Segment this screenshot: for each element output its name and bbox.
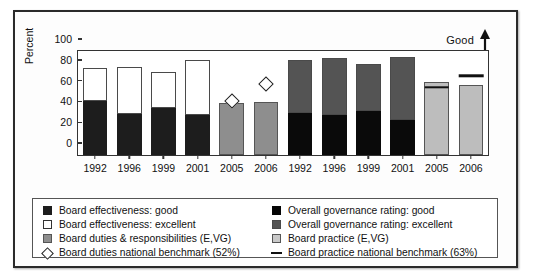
x-axis-tick — [470, 155, 471, 159]
x-axis-label: 2005 — [425, 162, 448, 174]
y-axis-tick: 0 — [66, 137, 78, 149]
y-axis-tick: 20 — [60, 116, 78, 128]
legend-swatch-icon — [272, 220, 281, 229]
x-axis-label: 1996 — [323, 162, 346, 174]
bar-segment-excellent — [185, 60, 210, 115]
x-axis-tick — [129, 155, 130, 159]
x-axis-label: 1999 — [357, 162, 380, 174]
x-axis-label: 1996 — [118, 162, 141, 174]
x-axis-label: 2005 — [220, 162, 243, 174]
bar-segment-oexcellent — [356, 64, 381, 112]
legend-item: Board practice national benchmark (63%) — [272, 246, 497, 260]
legend-column-left: Board effectiveness: goodBoard effective… — [33, 199, 268, 257]
bar — [424, 82, 449, 155]
benchmark-line-marker — [424, 86, 449, 89]
bar-segment-excellent — [117, 67, 142, 115]
x-axis-label: 1992 — [288, 162, 311, 174]
bar — [117, 67, 142, 155]
legend-item: Board duties & responsibilities (E,VG) — [43, 232, 268, 246]
legend-item: Board practice (E,VG) — [272, 232, 497, 246]
bar — [254, 102, 279, 155]
x-axis-tick — [265, 155, 266, 159]
legend-swatch-icon — [43, 206, 52, 215]
legend-item: Board effectiveness: good — [43, 204, 268, 218]
plot-axes: 1008060402001992199619992001200520061992… — [77, 50, 489, 156]
x-axis-label: 1999 — [152, 162, 175, 174]
legend-label: Board duties national benchmark (52%) — [59, 247, 240, 258]
y-axis-tick: 100 — [54, 33, 78, 45]
x-axis-tick — [299, 155, 300, 159]
x-axis-label: 2006 — [459, 162, 482, 174]
bar — [288, 60, 313, 155]
x-axis-tick — [163, 155, 164, 159]
legend-swatch-icon — [43, 234, 52, 243]
y-axis-label: Percent — [23, 28, 35, 64]
bar — [185, 60, 210, 155]
bar-segment-good — [117, 114, 142, 155]
legend-label: Board practice (E,VG) — [288, 233, 389, 244]
legend-swatch-icon — [272, 206, 281, 215]
bar-segment-duties — [254, 102, 279, 155]
legend-swatch-icon — [272, 234, 281, 243]
legend-label: Board effectiveness: good — [59, 205, 178, 216]
plot-area-wrapper: Good Percent 100806040200199219961999200… — [15, 12, 516, 186]
bar — [151, 72, 176, 155]
x-axis-tick — [94, 155, 95, 159]
bar — [356, 63, 381, 155]
legend-label: Board effectiveness: excellent — [59, 219, 196, 230]
bar-segment-oexcellent — [288, 60, 313, 113]
figure-frame: Good Percent 100806040200199219961999200… — [13, 10, 518, 268]
x-axis-tick — [231, 155, 232, 159]
bar — [322, 58, 347, 155]
legend-column-right: Overall governance rating: goodOverall g… — [268, 199, 497, 257]
bar-segment-duties — [219, 103, 244, 155]
x-axis-label: 2001 — [186, 162, 209, 174]
x-axis-label: 2001 — [391, 162, 414, 174]
y-axis-tick: 40 — [60, 95, 78, 107]
bar-segment-ogood — [322, 115, 347, 155]
legend-label: Board practice national benchmark (63%) — [288, 247, 477, 258]
bar-segment-excellent — [83, 68, 108, 101]
y-axis-tick: 80 — [60, 54, 78, 66]
x-axis-tick — [197, 155, 198, 159]
bar-segment-excellent — [151, 72, 176, 108]
legend-swatch-icon — [43, 220, 52, 229]
bar — [219, 103, 244, 155]
bar-segment-ogood — [356, 111, 381, 155]
bar-segment-good — [151, 108, 176, 155]
legend-label: Overall governance rating: good — [288, 205, 435, 216]
benchmark-line-marker — [459, 75, 484, 78]
bar — [83, 68, 108, 155]
y-axis-tick: 60 — [60, 75, 78, 87]
legend-item: Overall governance rating: excellent — [272, 218, 497, 232]
bar-segment-practice — [459, 85, 484, 155]
legend-label: Board duties & responsibilities (E,VG) — [59, 233, 231, 244]
x-axis-label: 2006 — [254, 162, 277, 174]
bar-segment-oexcellent — [322, 58, 347, 115]
x-axis-tick — [436, 155, 437, 159]
x-axis-tick — [368, 155, 369, 159]
bar-segment-good — [83, 101, 108, 155]
bar-segment-oexcellent — [390, 57, 415, 119]
legend-item: Board effectiveness: excellent — [43, 218, 268, 232]
bar-segment-ogood — [390, 120, 415, 155]
x-axis-label: 1992 — [83, 162, 106, 174]
legend-label: Overall governance rating: excellent — [288, 219, 452, 230]
bar — [459, 85, 484, 155]
chart-legend: Board effectiveness: goodBoard effective… — [32, 198, 498, 258]
legend-item: Overall governance rating: good — [272, 204, 497, 218]
bar-segment-ogood — [288, 113, 313, 155]
x-axis-tick — [334, 155, 335, 159]
legend-dash-icon — [272, 248, 281, 257]
legend-item: Board duties national benchmark (52%) — [43, 246, 268, 260]
bar-segment-practice — [424, 82, 449, 155]
legend-diamond-icon — [43, 248, 52, 257]
good-direction-label: Good — [446, 34, 474, 46]
benchmark-diamond-marker — [258, 77, 274, 93]
bar-segment-good — [185, 115, 210, 155]
x-axis-tick — [402, 155, 403, 159]
bar — [390, 57, 415, 155]
